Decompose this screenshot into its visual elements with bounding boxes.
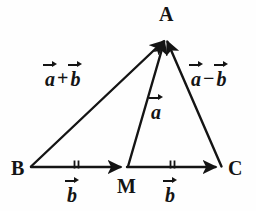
vector-label-b-segment-mc: b	[164, 176, 176, 205]
vector-operator: −	[202, 68, 215, 88]
vector-label-a-plus-b: a + b	[44, 60, 81, 89]
vector-letter: a	[44, 69, 56, 89]
vector-letter: a	[190, 69, 202, 89]
vector-term-b: b	[69, 60, 81, 89]
vector-term-b: b	[215, 60, 227, 89]
vector-term-a: a	[44, 60, 56, 89]
overset-arrow-icon	[65, 176, 79, 184]
vector-letter: a	[150, 102, 162, 122]
vector-term-b: b	[164, 176, 176, 205]
vertex-label-m: M	[117, 176, 136, 196]
vector-letter: b	[66, 185, 78, 205]
vector-label-b-segment-bm: b	[66, 176, 78, 205]
vector-label-a-minus-b: a − b	[190, 60, 227, 89]
overset-arrow-icon	[43, 60, 57, 68]
overset-arrow-icon	[68, 60, 82, 68]
vector-term-a: a	[190, 60, 202, 89]
vector-letter: b	[215, 69, 227, 89]
overset-arrow-icon	[189, 60, 203, 68]
vertex-label-b: B	[11, 158, 24, 178]
vector-operator: +	[56, 68, 69, 88]
overset-arrow-icon	[214, 60, 228, 68]
vector-letter: b	[164, 185, 176, 205]
vector-term-a: a	[150, 93, 162, 122]
vertex-label-c: C	[228, 158, 242, 178]
vertex-label-a: A	[159, 4, 173, 24]
vector-term-b: b	[66, 176, 78, 205]
overset-arrow-icon	[163, 176, 177, 184]
vector-diagram-figure: A B M C a + b a	[0, 0, 256, 211]
vector-letter: b	[69, 69, 81, 89]
vector-label-a: a	[150, 93, 162, 122]
overset-arrow-icon	[149, 93, 163, 101]
